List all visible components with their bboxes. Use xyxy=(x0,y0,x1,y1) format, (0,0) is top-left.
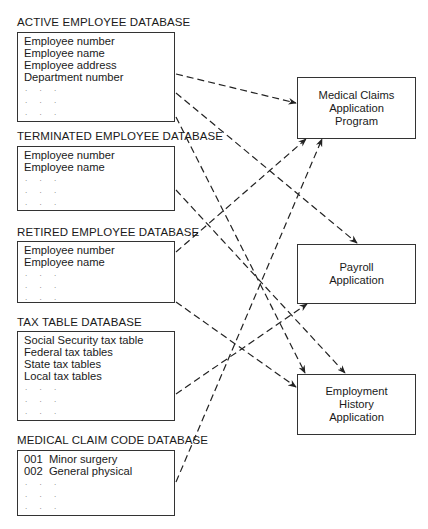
ellipsis-row: . . . xyxy=(24,185,174,197)
ellipsis-row: . . . xyxy=(24,95,174,107)
ellipsis-row: . . . xyxy=(24,268,174,280)
retired-employee-db-box: Employee number Employee name . . . . . … xyxy=(17,241,175,303)
db-field: Employee number xyxy=(24,149,174,161)
db-field: Employee name xyxy=(24,161,174,173)
ellipsis-row: . . . xyxy=(24,83,174,95)
medical-claims-app-box: Medical Claims Application Program xyxy=(297,77,416,139)
app-label-line: Medical Claims xyxy=(319,89,395,102)
ellipsis-row: . . . xyxy=(24,477,174,489)
ellipsis-row: . . . xyxy=(24,406,174,418)
app-label-line: Application xyxy=(329,411,384,424)
app-label-line: Payroll xyxy=(339,261,373,274)
arrow-active-to-employment-history xyxy=(176,117,305,373)
ellipsis-row: . . . xyxy=(24,173,174,185)
db-field: Employee address xyxy=(24,59,174,71)
app-label-line: Employment xyxy=(325,385,387,398)
payroll-app-box: Payroll Application xyxy=(297,244,416,304)
ellipsis-row: . . . xyxy=(24,292,174,304)
ellipsis-row: . . . xyxy=(24,107,174,119)
db-field: Department number xyxy=(24,71,174,83)
employment-history-app-box: Employment History Application xyxy=(297,374,416,435)
medical-claim-code-db-title: MEDICAL CLAIM CODE DATABASE xyxy=(17,434,208,447)
ellipsis-row: . . . xyxy=(24,394,174,406)
app-label-line: Application xyxy=(329,274,384,287)
active-employee-db-title: ACTIVE EMPLOYEE DATABASE xyxy=(17,16,190,29)
db-field: Social Security tax table xyxy=(24,334,174,346)
tax-table-db-box: Social Security tax table Federal tax ta… xyxy=(17,331,175,421)
app-label-line: History xyxy=(339,398,374,411)
app-label-line: Program xyxy=(335,115,378,128)
ellipsis-row: . . . xyxy=(24,489,174,501)
retired-employee-db-title: RETIRED EMPLOYEE DATABASE xyxy=(17,226,199,239)
ellipsis-row: . . . xyxy=(24,280,174,292)
db-field: 002 General physical xyxy=(24,465,174,477)
arrow-active-to-medical-claims xyxy=(176,74,296,103)
medical-claim-code-db-box: 001 Minor surgery 002 General physical .… xyxy=(17,450,175,516)
db-field: Local tax tables xyxy=(24,370,174,382)
ellipsis-row: . . . xyxy=(24,382,174,394)
terminated-employee-db-box: Employee number Employee name . . . . . … xyxy=(17,146,175,211)
tax-table-db-title: TAX TABLE DATABASE xyxy=(17,316,142,329)
ellipsis-row: . . . xyxy=(24,501,174,513)
ellipsis-row: . . . xyxy=(24,197,174,209)
db-field: Employee number xyxy=(24,244,174,256)
db-field: Employee number xyxy=(24,35,174,47)
app-label-line: Application xyxy=(329,102,384,115)
terminated-employee-db-title: TERMINATED EMPLOYEE DATABASE xyxy=(17,130,223,143)
active-employee-db-box: Employee number Employee name Employee a… xyxy=(17,32,175,122)
db-field: State tax tables xyxy=(24,358,174,370)
arrow-tax-to-payroll xyxy=(176,304,307,394)
arrow-retired-to-employment-history xyxy=(176,302,296,387)
db-field: 001 Minor surgery xyxy=(24,453,174,465)
db-field: Employee name xyxy=(24,256,174,268)
db-field: Employee name xyxy=(24,47,174,59)
db-field: Federal tax tables xyxy=(24,346,174,358)
